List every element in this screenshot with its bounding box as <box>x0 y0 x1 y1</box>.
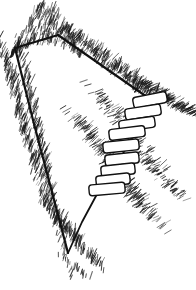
ravine-illustration <box>0 0 196 290</box>
stone-step-9 <box>89 182 126 196</box>
figure-root: Pen-and-ink line drawing of a V-shaped g… <box>0 0 196 290</box>
stone-step-face-9 <box>89 182 126 196</box>
